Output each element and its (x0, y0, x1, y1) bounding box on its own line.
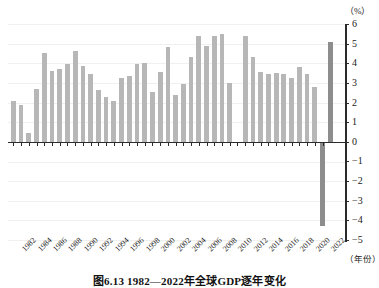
y-axis-tick (345, 122, 349, 123)
bar (88, 74, 93, 142)
plot-area (8, 24, 345, 240)
y-axis-tick (345, 63, 349, 64)
y-axis-tick-label: 6 (352, 19, 357, 29)
bar (189, 57, 194, 141)
bar (26, 133, 31, 142)
bar (312, 87, 317, 142)
bar (289, 78, 294, 142)
bar (274, 73, 279, 142)
bar (243, 36, 248, 142)
x-axis-tick (98, 143, 99, 146)
x-axis-tick (176, 143, 177, 146)
bar (34, 89, 39, 142)
bar (251, 57, 256, 141)
x-axis-tick (183, 143, 184, 146)
x-axis-tick (284, 143, 285, 146)
bar (173, 95, 178, 142)
x-axis-tick (114, 143, 115, 146)
bar (150, 92, 155, 142)
bar (320, 142, 325, 226)
x-axis-tick (137, 143, 138, 146)
x-axis-tick (75, 143, 76, 146)
bar (73, 51, 78, 142)
y-axis-tick (345, 24, 349, 25)
x-axis-tick (21, 143, 22, 146)
x-axis-tick (292, 143, 293, 146)
y-axis-tick (345, 220, 349, 221)
y-axis-tick-label: 5 (352, 39, 357, 49)
bar (305, 74, 310, 142)
y-axis-tick-label: −1 (352, 156, 363, 166)
x-axis-tick (83, 143, 84, 146)
x-axis-tick (323, 143, 324, 146)
bar (104, 97, 109, 142)
y-axis-tick-label: −2 (352, 176, 363, 186)
x-axis-tick (52, 143, 53, 146)
x-axis-tick (60, 143, 61, 146)
x-axis-tick (44, 143, 45, 146)
bar (258, 72, 263, 142)
y-axis-tick (345, 201, 349, 202)
bar (119, 78, 124, 142)
x-axis-tick (245, 143, 246, 146)
bar (196, 36, 201, 142)
x-axis-tick (207, 143, 208, 146)
y-axis-tick-label: −4 (352, 215, 363, 225)
y-axis-tick-label: −3 (352, 196, 363, 206)
x-axis-tick (152, 143, 153, 146)
x-axis-tick (129, 143, 130, 146)
bar (81, 66, 86, 142)
figure-caption: 图6.13 1982—2022年全球GDP逐年变化 (0, 275, 379, 288)
x-axis-tick (307, 143, 308, 146)
x-axis-tick (145, 143, 146, 146)
bar (19, 105, 24, 142)
x-axis-tick (222, 143, 223, 146)
x-axis-tick (106, 143, 107, 146)
x-axis-tick (122, 143, 123, 146)
x-axis-tick (199, 143, 200, 146)
y-axis-tick-label: 0 (352, 137, 357, 147)
x-axis-tick (91, 143, 92, 146)
y-axis-tick (345, 181, 349, 182)
x-axis-tick (230, 143, 231, 146)
bar (281, 74, 286, 142)
y-axis-tick (345, 142, 349, 143)
y-axis-tick (345, 83, 349, 84)
bar (181, 84, 186, 142)
x-axis-tick (261, 143, 262, 146)
y-axis-tick (345, 161, 349, 162)
bar (166, 47, 171, 142)
x-axis-tick (29, 143, 30, 146)
bar (220, 34, 225, 142)
bar (328, 42, 333, 142)
bar-series (8, 24, 345, 240)
bar (142, 63, 147, 142)
bar (65, 64, 70, 142)
x-axis-tick (268, 143, 269, 146)
bar (96, 90, 101, 142)
x-axis-tick (67, 143, 68, 146)
y-axis-tick-label: 3 (352, 78, 357, 88)
x-axis-tick (37, 143, 38, 146)
bar (297, 67, 302, 142)
bar (135, 64, 140, 142)
y-axis-line (345, 24, 347, 242)
x-axis-tick (253, 143, 254, 146)
bar (266, 74, 271, 142)
chart-figure: （%） 6543210−1−2−3−4−5 198219841986198819… (0, 0, 379, 288)
bar (212, 36, 217, 142)
x-axis-tick (315, 143, 316, 146)
bar (227, 83, 232, 142)
y-axis-tick (345, 103, 349, 104)
bar (158, 72, 163, 142)
y-axis-tick-label: 2 (352, 98, 357, 108)
bar (57, 69, 62, 142)
bar (111, 101, 116, 142)
bar (11, 101, 16, 142)
x-axis-tick (160, 143, 161, 146)
y-axis-tick-label: 1 (352, 117, 357, 127)
x-axis-tick (13, 143, 14, 146)
y-axis-tick-label: −5 (352, 235, 363, 245)
x-axis-tick (214, 143, 215, 146)
x-axis-tick (299, 143, 300, 146)
